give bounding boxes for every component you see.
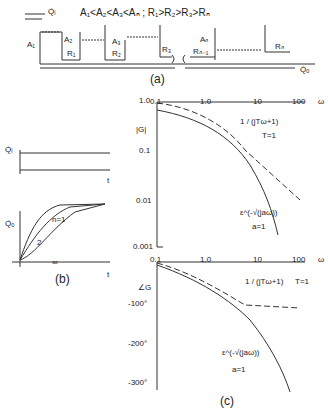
svg-text:R₃: R₃ — [162, 45, 171, 54]
svg-text:Q̇ₒ: Q̇ₒ — [300, 65, 309, 74]
svg-text:R₁: R₁ — [67, 49, 76, 58]
svg-text:a=1: a=1 — [252, 222, 266, 231]
svg-text:R₂: R₂ — [112, 49, 121, 58]
svg-text:0.001: 0.001 — [133, 242, 154, 251]
svg-text:A₁: A₁ — [27, 40, 35, 49]
svg-text:(b): (b) — [55, 272, 70, 286]
svg-text:100: 100 — [292, 97, 306, 106]
svg-text:0.1: 0.1 — [150, 255, 162, 264]
svg-text:ω: ω — [318, 255, 324, 264]
svg-text:0.1: 0.1 — [150, 97, 162, 106]
svg-text:ε^(-√(jaω)): ε^(-√(jaω)) — [222, 348, 260, 357]
svg-text:Q̇ᵢ: Q̇ᵢ — [5, 145, 12, 154]
mag-axes — [157, 102, 305, 247]
svg-text:10: 10 — [253, 255, 262, 264]
input-step — [20, 150, 110, 174]
svg-text:|G|: |G| — [136, 125, 146, 134]
svg-text:1.0: 1.0 — [200, 97, 212, 106]
svg-text:A₁<A₂<A₃<Aₙ ; R₁>R₂>R₃>Rₙ: A₁<A₂<A₃<Aₙ ; R₁>R₂>R₃>Rₙ — [80, 7, 210, 18]
svg-text:ω: ω — [318, 97, 324, 106]
svg-text:Q̇ᵢ: Q̇ᵢ — [48, 7, 55, 16]
svg-text:t: t — [107, 270, 110, 279]
svg-text:t: t — [107, 176, 110, 185]
svg-text:-200°: -200° — [128, 339, 147, 348]
svg-text:10: 10 — [253, 97, 262, 106]
svg-text:-300°: -300° — [128, 378, 147, 387]
svg-text:T=1: T=1 — [262, 131, 277, 140]
svg-text:1 / (jTω+1): 1 / (jTω+1) — [240, 117, 279, 126]
curve-inf — [20, 204, 105, 260]
svg-text:T=1: T=1 — [295, 277, 310, 286]
svg-text:(a): (a) — [150, 72, 165, 86]
svg-text:0.01: 0.01 — [136, 196, 152, 205]
svg-text:A₂: A₂ — [64, 35, 72, 44]
svg-text:ε^(-√(jaω)): ε^(-√(jaω)) — [240, 208, 278, 217]
svg-text:a=1: a=1 — [232, 365, 246, 374]
svg-text:Rₙ: Rₙ — [275, 42, 284, 51]
svg-text:2: 2 — [37, 238, 42, 247]
svg-text:Rₙ₋₁: Rₙ₋₁ — [193, 47, 209, 56]
svg-text:0.1: 0.1 — [139, 146, 151, 155]
svg-text:1 / (jTω+1): 1 / (jTω+1) — [245, 277, 284, 286]
figure: A₁<A₂<A₃<Aₙ ; R₁>R₂>R₃>Rₙ Q̇ᵢ Q̇ₒ A₁ A₂ … — [0, 0, 328, 412]
svg-text:∠G: ∠G — [138, 283, 151, 292]
svg-text:∞: ∞ — [52, 258, 58, 267]
mag-first-order — [157, 103, 300, 200]
svg-text:1.0: 1.0 — [139, 96, 151, 105]
svg-text:-100°: -100° — [128, 299, 147, 308]
svg-text:100: 100 — [292, 255, 306, 264]
svg-text:Aₙ: Aₙ — [200, 35, 208, 44]
svg-text:(c): (c) — [220, 394, 234, 408]
svg-text:1.0: 1.0 — [200, 255, 212, 264]
svg-text:Q̇ₒ: Q̇ₒ — [5, 219, 14, 228]
svg-text:A₃: A₃ — [112, 37, 121, 46]
svg-text:n=1: n=1 — [52, 215, 66, 224]
